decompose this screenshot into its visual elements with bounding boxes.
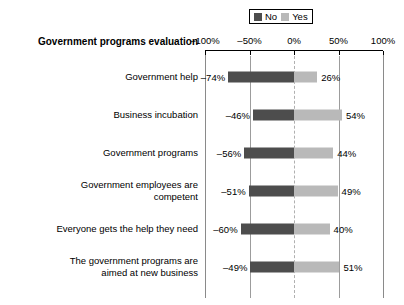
bar-no bbox=[253, 110, 294, 121]
category-label: Government help bbox=[125, 71, 198, 83]
bar-yes bbox=[294, 224, 330, 235]
x-axis-tick bbox=[339, 51, 340, 55]
legend-swatch-no bbox=[254, 13, 262, 21]
bar-value-no: –60% bbox=[213, 224, 237, 235]
bar-no bbox=[244, 148, 294, 159]
x-axis-tick bbox=[205, 51, 206, 55]
category-label: Government programs bbox=[103, 147, 198, 159]
bar-yes bbox=[294, 72, 317, 83]
legend-entry-no: No bbox=[254, 12, 277, 22]
bar-value-yes: 54% bbox=[346, 110, 365, 121]
category-label: Government employees are competent bbox=[81, 179, 198, 203]
bar-no bbox=[249, 186, 294, 197]
chart-row: Government programs–56%44% bbox=[0, 134, 404, 172]
bar-value-no: –56% bbox=[217, 148, 241, 159]
row-bars: –51%49% bbox=[205, 172, 383, 210]
diverging-bar-chart: No Yes Government programs evaluation –1… bbox=[0, 0, 404, 305]
row-bars: –74%26% bbox=[205, 58, 383, 96]
legend-label-yes: Yes bbox=[292, 12, 308, 22]
bar-value-no: –46% bbox=[226, 110, 250, 121]
chart-row: Everyone gets the help they need–60%40% bbox=[0, 210, 404, 248]
bar-no bbox=[241, 224, 294, 235]
bar-yes bbox=[294, 186, 338, 197]
row-bars: –56%44% bbox=[205, 134, 383, 172]
x-axis-tick bbox=[383, 51, 384, 55]
bar-value-yes: 49% bbox=[342, 186, 361, 197]
bar-no bbox=[250, 262, 294, 273]
legend-entry-yes: Yes bbox=[281, 12, 308, 22]
legend-swatch-yes bbox=[281, 13, 289, 21]
x-tick-label: 50% bbox=[329, 35, 348, 46]
x-axis-tick bbox=[294, 51, 295, 55]
chart-row: Government employees are competent–51%49… bbox=[0, 172, 404, 210]
chart-rows: Government help–74%26%Business incubatio… bbox=[0, 58, 404, 298]
x-tick-label: 0% bbox=[287, 35, 301, 46]
x-tick-label: –100% bbox=[190, 35, 220, 46]
row-bars: –60%40% bbox=[205, 210, 383, 248]
bar-value-no: –49% bbox=[223, 262, 247, 273]
bar-no bbox=[228, 72, 294, 83]
chart-row: Business incubation–46%54% bbox=[0, 96, 404, 134]
x-tick-label: –50% bbox=[237, 35, 261, 46]
chart-row: The government programs are aimed at new… bbox=[0, 248, 404, 286]
bar-yes bbox=[294, 110, 342, 121]
bar-yes bbox=[294, 148, 333, 159]
bar-value-yes: 51% bbox=[343, 262, 362, 273]
x-axis-tick bbox=[250, 51, 251, 55]
chart-title: Government programs evaluation bbox=[38, 36, 198, 48]
bar-value-yes: 40% bbox=[334, 224, 353, 235]
bar-value-no: –74% bbox=[201, 72, 225, 83]
bar-value-no: –51% bbox=[221, 186, 245, 197]
bar-value-yes: 44% bbox=[337, 148, 356, 159]
category-label: The government programs are aimed at new… bbox=[70, 255, 198, 279]
chart-legend: No Yes bbox=[249, 9, 313, 24]
x-axis-tick-labels: –100%–50%0%50%100% bbox=[205, 35, 383, 48]
bar-yes bbox=[294, 262, 339, 273]
chart-row: Government help–74%26% bbox=[0, 58, 404, 96]
row-bars: –49%51% bbox=[205, 248, 383, 286]
category-label: Everyone gets the help they need bbox=[56, 223, 198, 235]
legend-label-no: No bbox=[265, 12, 277, 22]
row-bars: –46%54% bbox=[205, 96, 383, 134]
bar-value-yes: 26% bbox=[321, 72, 340, 83]
category-label: Business incubation bbox=[114, 109, 199, 121]
x-tick-label: 100% bbox=[371, 35, 395, 46]
